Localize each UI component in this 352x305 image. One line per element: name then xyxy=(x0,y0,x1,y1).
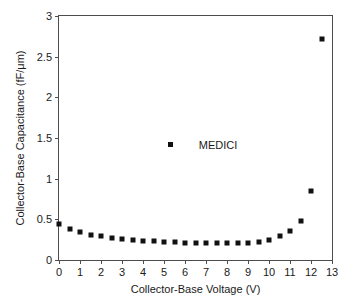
x-axis-tick-label: 6 xyxy=(182,266,188,278)
data-point-marker xyxy=(225,240,230,245)
data-point-marker xyxy=(214,240,219,245)
x-axis-tick xyxy=(164,260,165,264)
x-axis-tick-label: 13 xyxy=(326,266,338,278)
x-axis-tick-label: 10 xyxy=(263,266,275,278)
y-axis-title: Collector-Base Capacitance (fF/μm) xyxy=(14,15,30,261)
x-axis-tick xyxy=(80,260,81,264)
data-point-marker xyxy=(204,240,209,245)
x-axis-tick-label: 4 xyxy=(140,266,146,278)
y-axis-tick xyxy=(55,16,59,17)
x-axis-tick-label: 1 xyxy=(77,266,83,278)
y-axis-tick xyxy=(55,179,59,180)
data-point-marker xyxy=(120,236,125,241)
x-axis-tick-label: 12 xyxy=(305,266,317,278)
x-axis-tick xyxy=(101,260,102,264)
y-axis-tick xyxy=(55,219,59,220)
plot-frame: 00.511.522.53012345678910111213 MEDICI xyxy=(58,15,333,261)
data-point-marker xyxy=(235,240,240,245)
x-axis-tick-label: 7 xyxy=(203,266,209,278)
data-point-marker xyxy=(57,222,62,227)
x-axis-tick xyxy=(185,260,186,264)
x-axis-tick xyxy=(143,260,144,264)
x-axis-tick-label: 0 xyxy=(56,266,62,278)
data-point-marker xyxy=(141,238,146,243)
chart-legend: MEDICI xyxy=(168,139,238,151)
data-point-marker xyxy=(172,240,177,245)
data-point-marker xyxy=(88,232,93,237)
chart-figure: 00.511.522.53012345678910111213 MEDICI C… xyxy=(0,0,352,305)
data-point-marker xyxy=(288,228,293,233)
x-axis-tick xyxy=(227,260,228,264)
data-point-marker xyxy=(183,240,188,245)
data-point-marker xyxy=(298,218,303,223)
x-axis-tick xyxy=(332,260,333,264)
x-axis-tick xyxy=(122,260,123,264)
y-axis-tick xyxy=(55,57,59,58)
x-axis-tick-label: 3 xyxy=(119,266,125,278)
data-point-marker xyxy=(130,238,135,243)
x-axis-title: Collector-Base Voltage (V) xyxy=(58,283,333,295)
x-axis-tick xyxy=(269,260,270,264)
x-axis-tick xyxy=(206,260,207,264)
x-axis-tick-label: 9 xyxy=(245,266,251,278)
data-point-marker xyxy=(319,36,324,41)
y-axis-tick-label: 2.5 xyxy=(37,51,52,63)
data-point-marker xyxy=(277,234,282,239)
data-point-marker xyxy=(309,188,314,193)
y-axis-tick-label: 3 xyxy=(46,10,52,22)
data-point-marker xyxy=(256,240,261,245)
x-axis-tick xyxy=(311,260,312,264)
x-axis-tick-label: 11 xyxy=(284,266,295,278)
y-axis-tick-label: 2 xyxy=(46,91,52,103)
data-point-marker xyxy=(99,234,104,239)
y-axis-tick xyxy=(55,97,59,98)
x-axis-tick-label: 8 xyxy=(224,266,230,278)
y-axis-tick-label: 1 xyxy=(46,173,52,185)
y-axis-tick xyxy=(55,138,59,139)
y-axis-tick-label: 0.5 xyxy=(37,213,52,225)
x-axis-tick-label: 2 xyxy=(98,266,104,278)
x-axis-tick xyxy=(290,260,291,264)
y-axis-tick-label: 1.5 xyxy=(37,132,52,144)
data-point-marker xyxy=(67,227,72,232)
x-axis-tick-label: 5 xyxy=(161,266,167,278)
x-axis-tick xyxy=(59,260,60,264)
y-axis-tick-label: 0 xyxy=(46,254,52,266)
data-point-marker xyxy=(151,239,156,244)
legend-marker-icon xyxy=(168,142,173,147)
data-point-marker xyxy=(267,237,272,242)
legend-label: MEDICI xyxy=(199,139,238,151)
data-point-marker xyxy=(246,240,251,245)
data-point-marker xyxy=(78,230,83,235)
data-point-marker xyxy=(109,236,114,241)
data-point-marker xyxy=(193,240,198,245)
x-axis-tick xyxy=(248,260,249,264)
data-point-marker xyxy=(162,239,167,244)
